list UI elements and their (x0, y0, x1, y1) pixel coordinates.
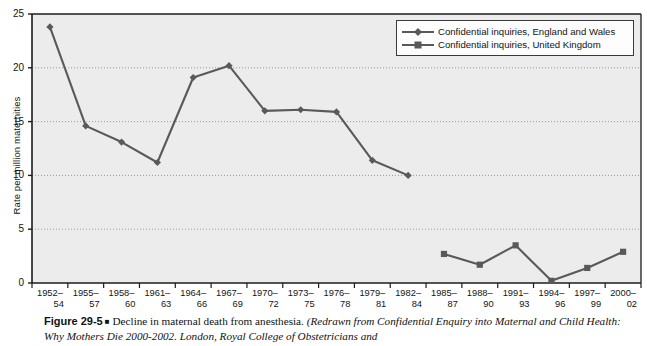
data-point-marker (620, 249, 626, 255)
data-point-marker (584, 265, 590, 271)
figure-caption: Figure 29-5■Decline in maternal death fr… (44, 314, 642, 343)
y-tick-label: 0 (2, 277, 24, 288)
x-tick-label: 1982–84 (390, 288, 426, 309)
legend-key-square-icon (401, 39, 435, 51)
chart-plot-area: Rate per million maternities 0510152025 … (0, 0, 647, 300)
y-tick-label: 20 (2, 62, 24, 73)
x-tick-label: 1988–90 (462, 288, 498, 309)
data-point-marker (513, 242, 519, 248)
x-tick-label: 1979–81 (354, 288, 390, 309)
x-tick-label: 1970–72 (247, 288, 283, 309)
data-point-marker (548, 278, 554, 284)
y-tick-label: 15 (2, 116, 24, 127)
x-tick-label: 1973–75 (283, 288, 319, 309)
x-tick-label: 1964–66 (175, 288, 211, 309)
y-tick-label: 10 (2, 169, 24, 180)
chart-legend: Confidential inquiries, England and Wale… (396, 20, 634, 56)
x-tick-label: 1991–93 (498, 288, 534, 309)
data-point-marker (477, 262, 483, 268)
figure-29-5: Rate per million maternities 0510152025 … (0, 0, 647, 346)
x-tick-label: 1994–96 (534, 288, 570, 309)
x-tick-label: 1952–54 (32, 288, 68, 309)
x-tick-label: 1961–63 (139, 288, 175, 309)
legend-item-united-kingdom: Confidential inquiries, United Kingdom (401, 38, 628, 51)
x-tick-label: 1955–57 (68, 288, 104, 309)
legend-key-diamond-icon (401, 26, 435, 38)
x-tick-label: 1976–78 (319, 288, 355, 309)
y-tick-label: 5 (2, 223, 24, 234)
y-tick-label: 25 (2, 8, 24, 19)
legend-label-united-kingdom: Confidential inquiries, United Kingdom (435, 39, 601, 50)
x-tick-label: 1985–87 (426, 288, 462, 309)
data-point-marker (441, 251, 447, 257)
caption-main-text: Decline in maternal death from anesthesi… (113, 315, 304, 327)
x-tick-label: 1958–60 (104, 288, 140, 309)
caption-figure-number: Figure 29-5 (44, 315, 103, 327)
x-tick-label: 1967–69 (211, 288, 247, 309)
caption-bullet-icon: ■ (103, 317, 113, 326)
legend-item-england-wales: Confidential inquiries, England and Wale… (401, 25, 628, 38)
x-tick-label: 1997–99 (569, 288, 605, 309)
legend-label-england-wales: Confidential inquiries, England and Wale… (435, 26, 615, 37)
x-tick-label: 2000–02 (605, 288, 641, 309)
